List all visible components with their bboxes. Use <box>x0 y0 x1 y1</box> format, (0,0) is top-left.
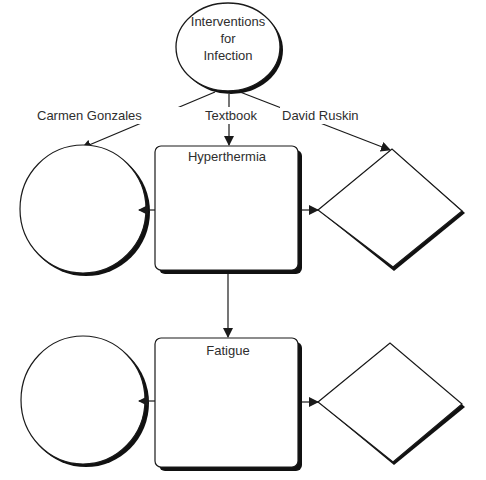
root-node-label: Interventions for Infection <box>191 13 265 64</box>
lower-right-diamond-node[interactable] <box>318 343 465 465</box>
hyperthermia-title: Hyperthermia <box>188 149 266 164</box>
root-label-line-2: for <box>191 30 265 47</box>
hyperthermia-box[interactable] <box>155 146 302 274</box>
concept-map-canvas <box>0 0 486 480</box>
root-label-line-3: Infection <box>191 47 265 64</box>
upper-right-diamond-node[interactable] <box>318 149 465 271</box>
root-label-line-1: Interventions <box>191 13 265 30</box>
edge-label-textbook: Textbook <box>205 108 257 123</box>
edge-label-david-ruskin: David Ruskin <box>282 108 359 123</box>
lower-left-circle-node[interactable] <box>21 336 149 467</box>
upper-left-circle-node[interactable] <box>20 145 150 276</box>
fatigue-title: Fatigue <box>206 343 249 358</box>
edge-label-carmen-gonzales: Carmen Gonzales <box>37 108 142 123</box>
